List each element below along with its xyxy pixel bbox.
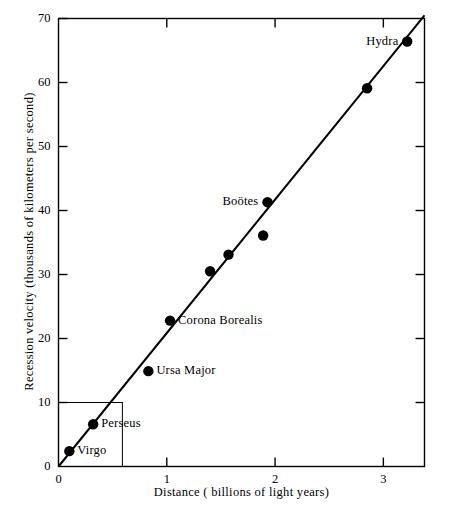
y-tick-label: 20 bbox=[17, 331, 51, 346]
y-tick-label: 40 bbox=[17, 203, 51, 218]
hubble-diagram-figure: Recession velocity (thousands of kilomet… bbox=[0, 0, 449, 511]
data-point bbox=[143, 366, 153, 376]
y-tick-label: 70 bbox=[17, 11, 51, 26]
point-label: Hydra bbox=[366, 34, 398, 49]
data-point bbox=[402, 36, 412, 46]
point-label: Virgo bbox=[77, 443, 106, 458]
data-point bbox=[258, 230, 268, 240]
chart-canvas bbox=[0, 0, 449, 511]
data-point bbox=[88, 419, 98, 429]
x-tick-label: 3 bbox=[373, 472, 393, 487]
x-tick-label: 2 bbox=[265, 472, 285, 487]
regression-line bbox=[59, 15, 425, 466]
point-label: Boötes bbox=[222, 194, 258, 209]
y-tick-label: 50 bbox=[17, 139, 51, 154]
point-label: Corona Borealis bbox=[178, 313, 263, 328]
data-point bbox=[165, 315, 175, 325]
data-point bbox=[223, 249, 233, 259]
x-tick-label: 0 bbox=[49, 472, 69, 487]
point-label: Ursa Major bbox=[156, 363, 215, 378]
y-tick-label: 30 bbox=[17, 267, 51, 282]
x-tick-label: 1 bbox=[157, 472, 177, 487]
data-point bbox=[362, 83, 372, 93]
y-tick-label: 10 bbox=[17, 395, 51, 410]
y-tick-label: 0 bbox=[17, 459, 51, 474]
point-label: Perseus bbox=[101, 416, 141, 431]
y-tick-label: 60 bbox=[17, 75, 51, 90]
y-axis-title: Recession velocity (thousands of kilomet… bbox=[22, 27, 37, 457]
x-axis-title: Distance ( billions of light years) bbox=[58, 485, 425, 500]
data-point bbox=[64, 446, 74, 456]
data-point bbox=[205, 266, 215, 276]
fit-line bbox=[59, 15, 425, 466]
data-point bbox=[262, 197, 272, 207]
